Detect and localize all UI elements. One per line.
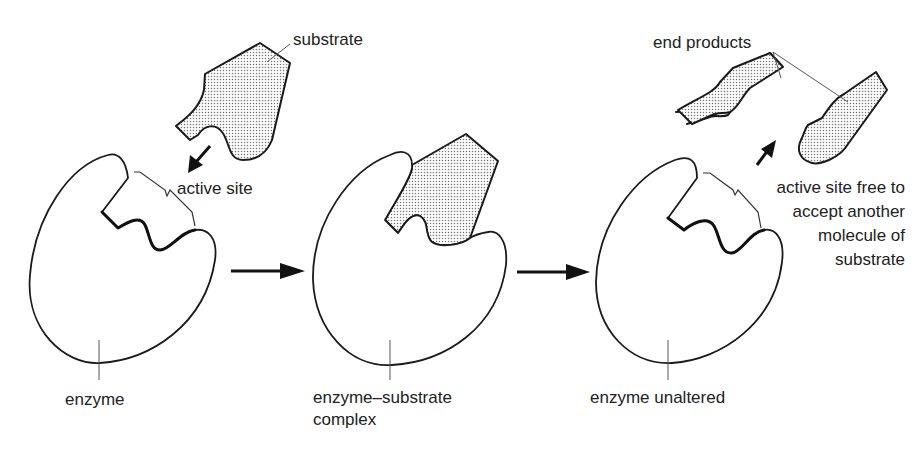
active-site-free-label-line2: accept another bbox=[793, 202, 906, 221]
enzyme-label: enzyme bbox=[65, 390, 125, 409]
end-product-1 bbox=[678, 53, 783, 124]
transition-arrow-2 bbox=[517, 264, 590, 280]
complex-label-line2: complex bbox=[313, 410, 377, 429]
release-arrow bbox=[757, 140, 776, 165]
unaltered-label: enzyme unaltered bbox=[590, 388, 725, 407]
complex-label-line1: enzyme–substrate bbox=[313, 388, 452, 407]
active-site-free-label-line4: substrate bbox=[835, 250, 905, 269]
active-site-free-label-line3: molecule of bbox=[818, 226, 905, 245]
end-product-2 bbox=[799, 72, 887, 163]
stage-complex: enzyme–substrate complex bbox=[313, 134, 506, 429]
substrate-shape bbox=[176, 43, 290, 160]
arrow-right-icon bbox=[280, 263, 305, 279]
active-site-label: active site bbox=[177, 179, 253, 198]
stage-enzyme: active site substrate enzyme bbox=[30, 30, 363, 409]
active-site-free-label-line1: active site free to bbox=[776, 178, 905, 197]
enzyme-body bbox=[596, 158, 783, 363]
active-site-brace bbox=[703, 173, 761, 228]
substrate-label: substrate bbox=[293, 30, 363, 49]
transition-arrow-1 bbox=[231, 263, 305, 279]
binding-arrow bbox=[188, 146, 210, 173]
arrow-right-icon bbox=[566, 264, 590, 280]
end-products-leader-2 bbox=[773, 52, 848, 102]
end-products-label: end products bbox=[653, 33, 751, 52]
stage-unaltered: active site free to accept another molec… bbox=[590, 33, 905, 407]
enzyme-diagram: active site substrate enzyme enzyme–subs… bbox=[0, 0, 921, 454]
